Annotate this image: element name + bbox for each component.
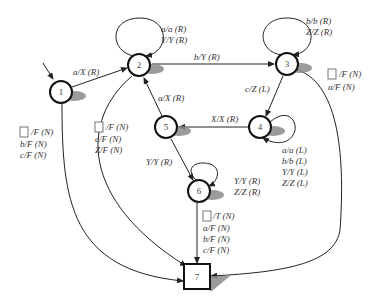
- label-6-7-c: b/F (N): [203, 234, 230, 244]
- label-2-7-b: c/F (N): [95, 134, 121, 144]
- label-6-7-b: a/F (N): [203, 223, 230, 233]
- edge-2-7: [98, 76, 186, 266]
- label-3-7-a: /F (N): [338, 69, 361, 79]
- label-6-7-d: c/F (N): [203, 245, 229, 255]
- edge-5-6: [171, 139, 193, 180]
- label-3-3-a: b/b (R): [306, 16, 331, 26]
- label-1-7-a: /F (N): [30, 127, 53, 137]
- label-4-4-a: a/a (L): [282, 145, 307, 155]
- label-1-7-b: b/F (N): [20, 139, 47, 149]
- label-2-2-a: a/a (R): [161, 24, 186, 34]
- state-7-halt[interactable]: 7: [184, 264, 230, 291]
- state-label: 2: [137, 60, 142, 70]
- state-2[interactable]: 2: [128, 54, 164, 76]
- edge-3-3-loop: [263, 18, 311, 55]
- blank-symbol-icon: [203, 211, 211, 221]
- label-4-5: X/X (R): [210, 114, 238, 124]
- label-5-2: a/X (R): [158, 93, 184, 103]
- state-diagram: 1 2 3 4 5 6 7 a/X (R) a/a (R) Y/Y (R) b/…: [0, 0, 379, 306]
- label-4-4-d: Z/Z (L): [282, 178, 308, 188]
- state-label: 5: [164, 122, 169, 132]
- label-6-6-a: Y/Y (R): [234, 176, 260, 186]
- state-4[interactable]: 4: [249, 116, 285, 138]
- label-1-2: a/X (R): [73, 67, 99, 77]
- start-arrow: [43, 63, 53, 79]
- state-label: 1: [59, 87, 64, 97]
- label-3-3-b: Z/Z (R): [306, 27, 332, 37]
- label-4-4-b: b/b (L): [282, 156, 307, 166]
- label-2-3: b/Y (R): [194, 52, 220, 62]
- state-3[interactable]: 3: [276, 53, 312, 75]
- blank-symbol-icon: [328, 69, 336, 79]
- label-4-4-c: Y/Y (L): [282, 167, 308, 177]
- state-5[interactable]: 5: [155, 116, 191, 138]
- label-5-6: Y/Y (R): [146, 157, 172, 167]
- label-3-7-b: a/F (N): [328, 82, 355, 92]
- blank-symbol-icon: [95, 122, 103, 132]
- state-label: 7: [195, 272, 200, 282]
- transition-labels: a/X (R) a/a (R) Y/Y (R) b/Y (R) b/b (R) …: [20, 16, 361, 255]
- label-2-7-c: Z/F (N): [95, 145, 122, 155]
- label-6-7-a: /T (N): [212, 211, 235, 221]
- edge-3-7: [211, 70, 342, 276]
- label-6-6-b: Z/Z (R): [234, 187, 260, 197]
- state-label: 6: [197, 186, 202, 196]
- label-1-7-c: c/F (N): [20, 150, 46, 160]
- blank-symbol-icon: [20, 127, 28, 137]
- label-2-2-b: Y/Y (R): [161, 35, 187, 45]
- label-2-7-a: /F (N): [105, 122, 128, 132]
- label-3-4: c/Z (L): [245, 84, 270, 94]
- state-label: 3: [285, 59, 290, 69]
- edge-2-2-loop: [116, 18, 163, 56]
- state-6[interactable]: 6: [188, 180, 224, 202]
- edge-3-4: [266, 76, 283, 116]
- state-label: 4: [258, 122, 263, 132]
